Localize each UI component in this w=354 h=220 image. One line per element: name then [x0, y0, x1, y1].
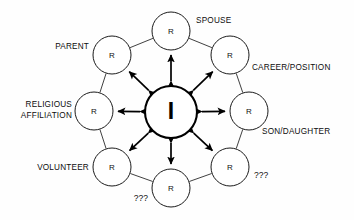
role-node-unknown-right[interactable]: R [211, 148, 249, 186]
label-unknown-right: ??? [254, 170, 268, 180]
ring-spoke-religious-affiliation-to-parent [100, 74, 106, 93]
ring-spoke-spouse-to-career-position [189, 38, 212, 47]
label-religious-affiliation: RELIGIOUSAFFILIATION [21, 100, 73, 120]
role-node-son-daughter[interactable]: R [230, 92, 268, 130]
relationship-diagram: RRRRRRRR I SPOUSECAREER/POSITIONSON/DAUG… [0, 0, 354, 220]
role-letter-parent: R [109, 51, 115, 60]
role-letter-unknown-bottom: R [168, 184, 174, 193]
ring-spoke-unknown-bottom-to-volunteer [130, 174, 152, 182]
ring-spoke-son-daughter-to-unknown-right [236, 129, 242, 148]
ring-spoke-volunteer-to-religious-affiliation [100, 130, 106, 149]
diagram-canvas: RRRRRRRR I SPOUSECAREER/POSITIONSON/DAUG… [0, 0, 354, 220]
label-career-position: CAREER/POSITION [252, 63, 331, 72]
role-letter-religious-affiliation: R [91, 107, 97, 116]
label-volunteer: VOLUNTEER [37, 163, 89, 172]
label-line: SON/DAUGHTER [262, 127, 330, 136]
role-node-unknown-bottom[interactable]: R [152, 169, 190, 207]
ring-spoke-parent-to-spouse [130, 38, 153, 47]
arrow-self-to-career-position [193, 72, 212, 91]
self-node[interactable]: I [145, 86, 197, 138]
role-node-volunteer[interactable]: R [93, 148, 131, 186]
label-line: ??? [134, 193, 148, 203]
self-letter: I [168, 98, 174, 124]
role-node-spouse[interactable]: R [152, 12, 190, 50]
role-letter-unknown-right: R [227, 163, 233, 172]
role-letter-son-daughter: R [246, 107, 252, 116]
role-letter-spouse: R [168, 27, 174, 36]
label-line: RELIGIOUS [26, 100, 73, 109]
label-son-daughter: SON/DAUGHTER [262, 127, 330, 136]
label-line: AFFILIATION [21, 111, 72, 120]
label-line: SPOUSE [196, 16, 232, 25]
label-unknown-bottom: ??? [134, 193, 148, 203]
arrow-self-to-parent [129, 72, 148, 91]
label-line: ??? [254, 170, 268, 180]
ring-spoke-unknown-right-to-unknown-bottom [189, 174, 211, 182]
role-letter-volunteer: R [109, 163, 115, 172]
arrow-self-to-volunteer [130, 133, 149, 150]
label-line: CAREER/POSITION [252, 63, 331, 72]
role-letter-career-position: R [227, 51, 233, 60]
self-node-group: I [145, 86, 197, 138]
role-node-religious-affiliation[interactable]: R [75, 92, 113, 130]
ring-spoke-career-position-to-son-daughter [236, 73, 242, 92]
label-line: VOLUNTEER [37, 163, 89, 172]
label-line: PARENT [55, 42, 89, 51]
label-parent: PARENT [55, 42, 89, 51]
role-node-parent[interactable]: R [93, 36, 131, 74]
label-spouse: SPOUSE [196, 16, 232, 25]
arrow-self-to-unknown-right [194, 133, 213, 150]
role-node-career-position[interactable]: R [211, 36, 249, 74]
